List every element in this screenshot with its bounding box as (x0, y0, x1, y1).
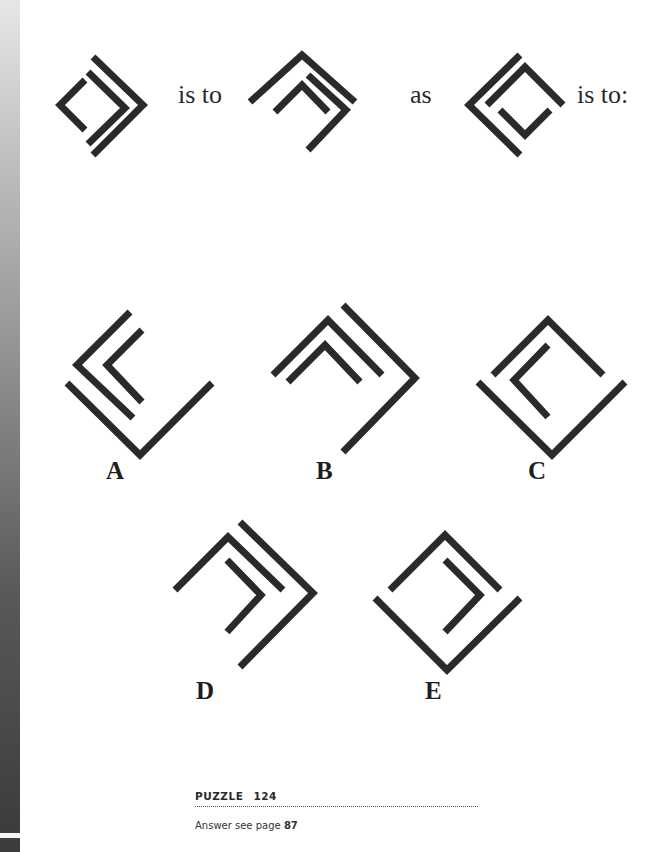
option-d-figure[interactable] (175, 522, 313, 667)
dotted-divider (195, 806, 478, 807)
puzzle-heading: PUZZLE 124 (195, 790, 277, 802)
option-a-label[interactable]: A (106, 458, 124, 483)
answer-reference: Answer see page 87 (195, 820, 298, 831)
text-is-to-colon: is to: (577, 82, 628, 108)
text-is-to: is to (178, 82, 222, 108)
option-e-figure[interactable] (375, 535, 520, 670)
answer-prefix: Answer see page (195, 820, 281, 831)
option-b-figure[interactable] (273, 305, 415, 452)
option-d-label[interactable]: D (196, 678, 214, 703)
option-b-label[interactable]: B (316, 458, 333, 483)
figure-2 (250, 55, 355, 150)
answer-page: 87 (284, 820, 298, 831)
text-as: as (410, 82, 432, 108)
option-a-figure[interactable] (67, 312, 212, 455)
option-c-label[interactable]: C (528, 458, 546, 483)
figure-3 (469, 55, 563, 155)
puzzle-number: 124 (253, 790, 276, 802)
puzzle-figures (0, 0, 661, 852)
option-e-label[interactable]: E (425, 678, 442, 703)
figure-1 (60, 57, 143, 155)
puzzle-word: PUZZLE (195, 790, 243, 802)
option-c-figure[interactable] (478, 320, 625, 455)
